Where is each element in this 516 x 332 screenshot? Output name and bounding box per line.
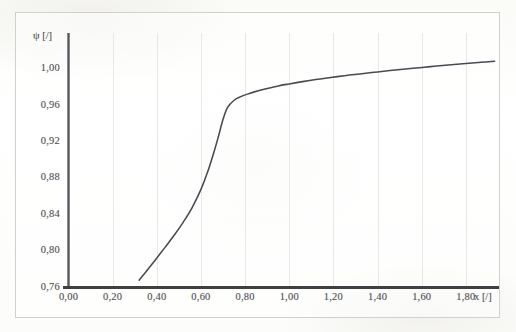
x-tick-label: 0,40 [137,291,177,302]
y-tick-label: 0,80 [26,244,60,255]
y-tick-label: 0,76 [26,281,60,292]
x-tick-label: 0,00 [49,291,89,302]
x-tick-label: 1,00 [269,291,309,302]
x-tick-label: 1,20 [313,291,353,302]
x-tick-label: 0,80 [225,291,265,302]
x-tick-label: 0,20 [93,291,133,302]
x-tick-label: 1,80 [446,291,486,302]
x-tick-label: 1,40 [358,291,398,302]
gridlines [114,33,467,288]
y-tick-label: 0,96 [26,99,60,110]
chart-plot-svg [0,0,516,332]
y-axis-title: ψ [/] [33,30,52,41]
data-series-line [139,61,494,280]
y-tick-label: 1,00 [26,62,60,73]
y-tick-label: 0,92 [26,135,60,146]
x-tick-label: 0,60 [181,291,221,302]
x-tick-label: 1,60 [402,291,442,302]
y-tick-label: 0,88 [26,171,60,182]
y-tick-label: 0,84 [26,208,60,219]
chart-page: ψ [/] x [/] 1,000,960,920,880,840,800,76… [0,0,516,332]
